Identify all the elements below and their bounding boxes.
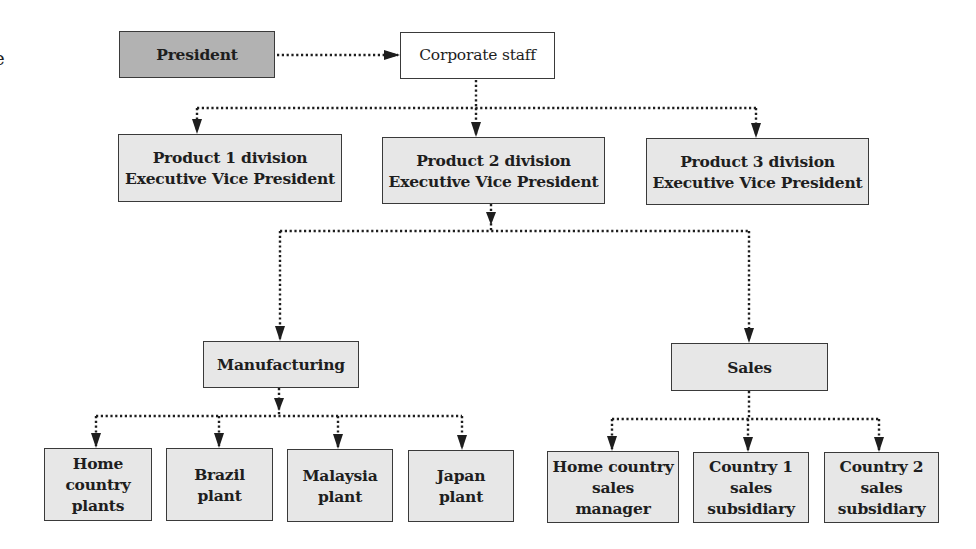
node-label: country	[65, 474, 130, 495]
node-label: Home	[73, 453, 123, 474]
node-label: Country 2	[840, 456, 924, 477]
arrowhead-icon	[275, 326, 285, 341]
node-label: Japan	[437, 465, 486, 486]
node-label: plants	[72, 495, 125, 516]
arrowhead-icon	[384, 50, 400, 60]
arrowhead-icon	[874, 437, 884, 452]
node-label: Corporate staff	[419, 45, 536, 66]
node-label: sales	[730, 477, 772, 498]
node-product1-division: Product 1 division Executive Vice Presid…	[118, 134, 342, 202]
node-label: subsidiary	[838, 498, 925, 519]
node-label: plant	[439, 486, 483, 507]
node-label: plant	[197, 485, 241, 506]
node-malaysia-plant: Malaysia plant	[287, 449, 393, 522]
node-label: manager	[575, 498, 650, 519]
node-label: Product 1 division	[153, 147, 308, 168]
node-label: Home country	[553, 456, 674, 477]
node-president: President	[119, 31, 275, 78]
arrowhead-icon	[91, 433, 101, 448]
node-product3-division: Product 3 division Executive Vice Presid…	[646, 138, 869, 205]
arrowhead-icon	[333, 434, 343, 449]
node-japan-plant: Japan plant	[408, 450, 514, 522]
node-label: plant	[318, 486, 362, 507]
node-label: Malaysia	[302, 465, 377, 486]
node-label: Product 3 division	[680, 151, 835, 172]
node-label: Manufacturing	[217, 354, 345, 375]
node-sales: Sales	[671, 343, 828, 391]
node-label: subsidiary	[707, 498, 794, 519]
arrowhead-icon	[192, 119, 202, 134]
node-label: Executive Vice President	[125, 168, 335, 189]
arrowhead-icon	[486, 212, 496, 225]
node-brazil-plant: Brazil plant	[166, 448, 273, 521]
arrowhead-icon	[607, 436, 617, 451]
node-home-country-plants: Home country plants	[44, 448, 152, 521]
node-label: Product 2 division	[416, 150, 571, 171]
node-label: Country 1	[709, 456, 793, 477]
node-label: sales	[592, 477, 634, 498]
arrowheads	[91, 50, 884, 452]
arrowhead-icon	[274, 398, 284, 411]
node-label: Brazil	[194, 464, 245, 485]
org-chart-canvas: e	[0, 0, 976, 549]
node-label: sales	[860, 477, 902, 498]
arrowhead-icon	[457, 435, 467, 450]
node-product2-division: Product 2 division Executive Vice Presid…	[382, 137, 605, 204]
node-home-country-sales-manager: Home country sales manager	[547, 451, 679, 523]
node-country1-sales-subsidiary: Country 1 sales subsidiary	[693, 452, 809, 523]
node-label: Executive Vice President	[653, 172, 863, 193]
arrowhead-icon	[214, 433, 224, 448]
node-manufacturing: Manufacturing	[203, 341, 359, 388]
arrowhead-icon	[744, 328, 754, 343]
arrowhead-icon	[743, 437, 753, 452]
node-label: President	[156, 44, 238, 65]
node-label: Sales	[727, 357, 772, 378]
node-corporate-staff: Corporate staff	[400, 32, 555, 79]
arrowhead-icon	[471, 122, 481, 137]
node-label: Executive Vice President	[389, 171, 599, 192]
node-country2-sales-subsidiary: Country 2 sales subsidiary	[824, 452, 939, 523]
arrowhead-icon	[751, 123, 761, 138]
